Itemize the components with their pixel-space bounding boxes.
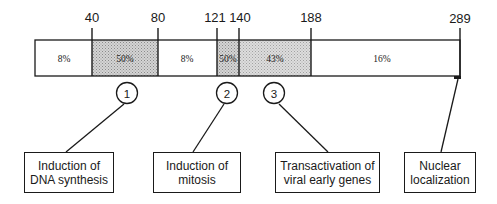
function-label-line2: localization [410,173,469,187]
segment-percent: 50% [116,54,134,64]
function-box-dna-synthesis: Induction of DNA synthesis [24,152,114,193]
function-label-line1: Transactivation of [280,159,374,173]
segment-percent: 16% [373,54,391,64]
marker-1: 1 [117,83,138,104]
segment-percent: 8% [181,54,194,64]
marker-2: 2 [217,83,238,104]
position-label: 289 [449,11,471,26]
position-label: 80 [151,10,165,25]
c-terminus-marker [454,76,461,79]
function-label-line2: viral early genes [280,173,374,187]
connector-4 [441,79,458,152]
segment-percent: 50% [219,54,237,64]
protein-bar [35,40,460,76]
function-box-transactivation: Transactivation of viral early genes [275,152,380,193]
function-label-line1: Nuclear [410,159,469,173]
function-box-nuclear-localization: Nuclear localization [404,152,476,193]
function-label-line1: Induction of [30,159,108,173]
segment-percent: 8% [58,54,71,64]
function-label-line1: Induction of [166,159,228,173]
marker-number: 2 [224,88,230,100]
connector-2 [193,104,224,152]
connector-3 [279,104,328,152]
segment-percent: 43% [266,54,284,64]
position-label: 140 [229,10,251,25]
position-label: 121 [204,10,226,25]
connector-1 [66,104,124,152]
position-label: 40 [85,10,99,25]
marker-3: 3 [264,83,285,104]
marker-number: 1 [124,88,130,100]
function-label-line2: mitosis [166,173,228,187]
position-label: 188 [300,10,322,25]
function-label-line2: DNA synthesis [30,173,108,187]
position-labels: 40 80 121 140 188 289 [85,10,471,26]
function-box-mitosis: Induction of mitosis [153,152,241,193]
marker-number: 3 [271,88,277,100]
